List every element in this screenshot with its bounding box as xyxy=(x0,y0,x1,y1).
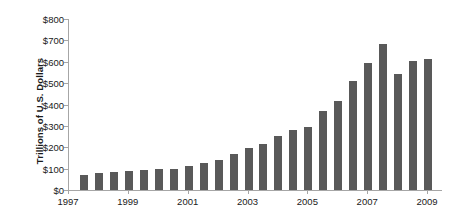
y-axis-tick-mark xyxy=(64,40,68,41)
bar xyxy=(245,148,253,190)
bar xyxy=(230,154,238,190)
bar xyxy=(110,172,118,190)
x-axis-tick-label: 2007 xyxy=(357,196,378,207)
plot-area xyxy=(68,19,442,190)
y-axis-tick-mark xyxy=(64,169,68,170)
y-axis-tick-label: $100 xyxy=(28,163,64,174)
y-axis-tick-label: $200 xyxy=(28,142,64,153)
y-axis-tick-label: $500 xyxy=(28,78,64,89)
x-axis-tick-mark xyxy=(128,190,129,194)
y-axis-tick-label: $600 xyxy=(28,56,64,67)
x-axis-tick-mark xyxy=(427,190,428,194)
bar xyxy=(334,101,342,190)
bar xyxy=(274,136,282,191)
bar xyxy=(304,127,312,190)
x-axis-tick-mark xyxy=(307,190,308,194)
bar xyxy=(379,44,387,190)
y-axis-tick-mark xyxy=(64,126,68,127)
y-axis-tick-label: $800 xyxy=(28,14,64,25)
x-axis-line xyxy=(68,190,442,191)
x-axis-tick-label: 1999 xyxy=(117,196,138,207)
bar xyxy=(394,74,402,190)
x-axis-tick-label: 1997 xyxy=(57,196,78,207)
y-axis-tick-mark xyxy=(64,105,68,106)
x-axis-tick-mark xyxy=(68,190,69,194)
x-axis-tick-mark xyxy=(248,190,249,194)
bar xyxy=(170,169,178,190)
bar xyxy=(200,163,208,190)
bar xyxy=(125,171,133,190)
bar xyxy=(155,169,163,190)
y-axis-tick-label: $700 xyxy=(28,35,64,46)
bar xyxy=(259,144,267,190)
bar xyxy=(185,166,193,190)
y-axis-tick-label-group: $0$100$200$300$400$500$600$700$800 xyxy=(28,19,64,190)
y-axis-tick-mark xyxy=(64,83,68,84)
bar xyxy=(215,160,223,190)
bars-layer xyxy=(69,19,442,190)
y-axis-tick-label: $400 xyxy=(28,99,64,110)
bar-chart: Trillions of U.S. Dollars $0$100$200$300… xyxy=(0,0,449,222)
x-axis-tick-label: 2001 xyxy=(177,196,198,207)
y-axis-tick-label: $0 xyxy=(28,185,64,196)
bar xyxy=(95,173,103,190)
x-axis-tick-label: 2005 xyxy=(297,196,318,207)
bar xyxy=(364,63,372,190)
bar xyxy=(80,175,88,190)
bar xyxy=(289,130,297,190)
y-axis-tick-label: $300 xyxy=(28,120,64,131)
y-axis-tick-mark xyxy=(64,19,68,20)
bar xyxy=(424,59,432,190)
x-axis-tick-mark xyxy=(367,190,368,194)
x-axis-tick-label-group: 1997199920012003200520072009 xyxy=(68,196,442,212)
bar xyxy=(409,61,417,190)
x-axis-tick-mark xyxy=(188,190,189,194)
bar xyxy=(140,170,148,190)
x-axis-tick-label: 2009 xyxy=(416,196,437,207)
bar xyxy=(349,81,357,190)
y-axis-tick-mark xyxy=(64,147,68,148)
y-axis-tick-mark xyxy=(64,62,68,63)
x-axis-tick-label: 2003 xyxy=(237,196,258,207)
bar xyxy=(319,111,327,190)
